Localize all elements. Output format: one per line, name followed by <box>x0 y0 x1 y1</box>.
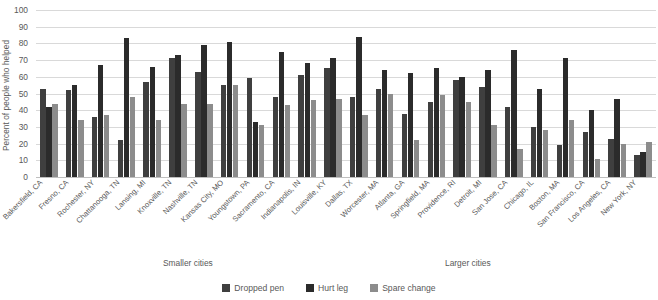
x-axis-tick-labels: Bakersfield, CAFresno, CARochester, NYCh… <box>36 178 656 258</box>
bar <box>330 58 335 177</box>
bar <box>78 120 83 177</box>
bar-group <box>268 10 294 177</box>
y-axis-tick-label: 30 <box>19 122 28 132</box>
bar <box>181 104 186 177</box>
bar <box>382 70 387 177</box>
bar-groups <box>36 10 656 177</box>
bar <box>511 50 516 177</box>
bar-group <box>475 10 501 177</box>
bar <box>453 80 458 177</box>
bar-group <box>346 10 372 177</box>
legend-label: Spare change <box>382 283 436 293</box>
bar <box>195 72 200 177</box>
bar <box>201 45 206 177</box>
y-axis-tick-label: 90 <box>19 22 28 32</box>
bar <box>543 130 548 177</box>
bar-group <box>243 10 269 177</box>
bar-group <box>165 10 191 177</box>
bar <box>434 68 439 177</box>
bar <box>402 114 407 177</box>
bar <box>311 100 316 177</box>
bar <box>221 85 226 177</box>
bar <box>640 152 645 177</box>
bar-group <box>604 10 630 177</box>
bar <box>362 115 367 177</box>
bar <box>589 110 594 177</box>
bar-group <box>398 10 424 177</box>
legend: Dropped penHurt legSpare change <box>0 283 658 293</box>
bar <box>583 132 588 177</box>
bar-group <box>449 10 475 177</box>
bar <box>531 127 536 177</box>
plot-area <box>36 10 656 177</box>
bar <box>336 99 341 177</box>
y-axis-tick-label: 70 <box>19 55 28 65</box>
legend-swatch-icon <box>306 284 314 292</box>
bar-group <box>553 10 579 177</box>
y-axis-tick-label: 10 <box>19 155 28 165</box>
bar <box>466 102 471 177</box>
bar <box>253 122 258 177</box>
legend-swatch-icon <box>222 284 230 292</box>
bar <box>459 77 464 177</box>
y-axis-tick-label: 80 <box>19 38 28 48</box>
bar <box>376 89 381 178</box>
bar <box>52 104 57 177</box>
bar <box>98 65 103 177</box>
bar-group <box>423 10 449 177</box>
bar <box>491 125 496 177</box>
bar <box>479 87 484 177</box>
bar <box>646 142 651 177</box>
bar <box>557 145 562 177</box>
bar <box>408 73 413 177</box>
legend-item[interactable]: Hurt leg <box>306 283 348 293</box>
legend-label: Dropped pen <box>234 283 284 293</box>
bar <box>388 94 393 178</box>
bar <box>207 104 212 177</box>
bar <box>563 58 568 177</box>
bar <box>614 99 619 177</box>
bar <box>279 52 284 177</box>
y-axis-tick-label: 20 <box>19 139 28 149</box>
bar <box>569 120 574 177</box>
bar-group <box>578 10 604 177</box>
y-axis-tick-label: 40 <box>19 105 28 115</box>
bar-group <box>113 10 139 177</box>
bar-group <box>372 10 398 177</box>
bar <box>298 75 303 177</box>
bar-group <box>88 10 114 177</box>
bar <box>440 95 445 177</box>
bar <box>130 97 135 177</box>
bar <box>227 42 232 177</box>
bar-group <box>62 10 88 177</box>
bar-group <box>191 10 217 177</box>
bar <box>143 82 148 177</box>
bar <box>118 140 123 177</box>
bar-chart: Percent of people who helped 10090807060… <box>0 0 658 300</box>
bar <box>285 105 290 177</box>
bar <box>273 97 278 177</box>
bar <box>356 37 361 177</box>
bar <box>537 89 542 178</box>
legend-swatch-icon <box>370 284 378 292</box>
bar-group <box>217 10 243 177</box>
bar <box>517 149 522 177</box>
bar <box>156 120 161 177</box>
bar <box>324 68 329 177</box>
bar-group <box>139 10 165 177</box>
legend-item[interactable]: Spare change <box>370 283 436 293</box>
bar <box>92 117 97 177</box>
bar <box>485 70 490 177</box>
bar <box>621 144 626 177</box>
y-axis-tick-label: 100 <box>14 5 28 15</box>
bar-group <box>630 10 656 177</box>
legend-item[interactable]: Dropped pen <box>222 283 284 293</box>
bar <box>259 125 264 177</box>
bar <box>66 90 71 177</box>
bar <box>150 67 155 177</box>
y-axis-tick-label: 0 <box>23 172 28 182</box>
legend-label: Hurt leg <box>318 283 348 293</box>
bar <box>169 58 174 177</box>
y-axis-tick-label: 50 <box>19 89 28 99</box>
bar <box>124 38 129 177</box>
